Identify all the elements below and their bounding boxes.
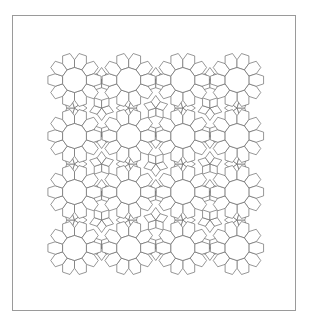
hexagon-tile <box>86 186 101 199</box>
hexagon-tile <box>195 130 210 143</box>
hexagon-tile <box>195 242 210 255</box>
decagon-tile <box>117 68 141 93</box>
hexagon-tile <box>249 186 264 199</box>
decagon-tile <box>171 180 195 205</box>
decagon-tile <box>117 124 141 149</box>
decagon-tile <box>117 236 141 261</box>
hexagon-tile <box>249 130 264 143</box>
decagon-tile <box>171 68 195 93</box>
hexagon-tile <box>86 242 101 255</box>
decagon-tile <box>63 68 87 93</box>
decagon-tile <box>225 180 249 205</box>
hexagon-tile <box>141 242 156 255</box>
hexagon-tile <box>141 186 156 199</box>
decagon-tile <box>171 236 195 261</box>
hexagon-tile <box>141 74 156 87</box>
tiles-group <box>48 54 264 275</box>
hexagon-tile <box>86 74 101 87</box>
hexagon-tile <box>86 130 101 143</box>
hexagon-tile <box>141 130 156 143</box>
tiling-diagram <box>0 0 314 327</box>
decagon-tile <box>63 180 87 205</box>
hexagon-tile <box>195 74 210 87</box>
decagon-tile <box>63 236 87 261</box>
hexagon-tile <box>249 74 264 87</box>
decagon-tile <box>171 124 195 149</box>
decagon-tile <box>225 68 249 93</box>
hexagon-tile <box>195 186 210 199</box>
decagon-tile <box>117 180 141 205</box>
decagon-tile <box>225 236 249 261</box>
hexagon-tile <box>249 242 264 255</box>
decagon-tile <box>63 124 87 149</box>
decagon-tile <box>225 124 249 149</box>
